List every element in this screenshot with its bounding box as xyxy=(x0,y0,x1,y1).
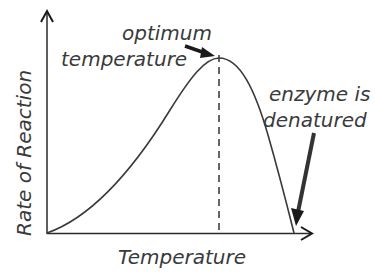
y-axis-label: Rate of Reaction xyxy=(12,70,36,236)
x-axis xyxy=(47,227,312,240)
enzyme-rate-chart: optimum temperature enzyme is denatured … xyxy=(0,0,375,276)
y-axis xyxy=(41,11,53,234)
denatured-label-line1: enzyme is xyxy=(269,82,370,106)
denatured-label-line2: denatured xyxy=(263,108,367,132)
rate-curve xyxy=(47,58,294,233)
optimum-label-line2: temperature xyxy=(61,47,187,71)
x-axis-label: Temperature xyxy=(118,245,246,269)
denatured-arrow-icon xyxy=(291,133,314,226)
optimum-label-line1: optimum xyxy=(122,21,212,45)
optimum-arrow-icon xyxy=(185,46,215,58)
